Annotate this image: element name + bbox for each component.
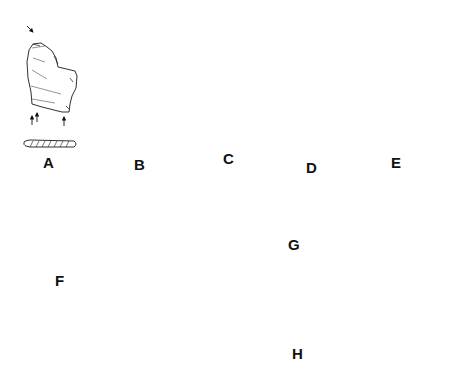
label-d: D (306, 160, 317, 175)
label-h: H (292, 346, 303, 361)
artifact-plate: A B C D E F G H (0, 0, 450, 380)
artifact-a (24, 26, 77, 147)
arrow-icon (27, 26, 33, 32)
label-e: E (391, 155, 401, 170)
label-g: G (288, 237, 300, 252)
label-c: C (223, 151, 234, 166)
label-f: F (55, 273, 64, 288)
label-b: B (134, 157, 145, 172)
label-a: A (43, 155, 54, 170)
